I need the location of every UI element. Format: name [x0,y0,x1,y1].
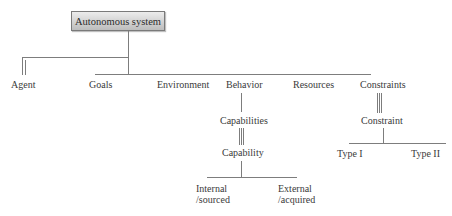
capability-branch-line [207,177,297,178]
agent-double-line-right [25,60,26,75]
internal-line2: /sourced [196,194,230,205]
agent-branch-line [22,57,129,58]
constraint-branch-line [349,143,446,144]
agent-double-line-left [22,57,23,75]
behavior-to-capabilities-line [241,93,242,112]
node-internal-sourced: Internal /sourced [196,183,230,205]
constraints-triple-line-2 [379,93,380,113]
node-type-2: Type II [411,148,440,159]
constraints-triple-line-3 [381,93,382,113]
external-line1: External [278,183,315,194]
main-branch-line [95,74,371,75]
node-behavior: Behavior [226,79,263,90]
node-environment: Environment [157,79,209,90]
capabilities-triple-line-2 [241,128,242,145]
node-capabilities: Capabilities [220,115,268,126]
node-type-1: Type I [337,148,363,159]
node-constraints: Constraints [360,79,406,90]
node-capability: Capability [222,147,264,158]
node-goals: Goals [89,79,112,90]
node-resources: Resources [293,79,334,90]
external-line2: /acquired [278,194,315,205]
capability-trunk-line [241,161,242,177]
diagram-canvas: Autonomous system Agent Goals Environmen… [0,0,452,216]
node-agent: Agent [11,79,35,90]
root-node-label: Autonomous system [75,16,161,27]
capabilities-triple-line-3 [243,128,244,145]
node-constraint: Constraint [361,115,403,126]
capabilities-triple-line-1 [239,128,240,145]
root-node-autonomous-system: Autonomous system [71,11,165,31]
constraints-triple-line-1 [377,93,378,113]
constraint-trunk-line [383,128,384,144]
root-trunk-line [128,31,129,75]
internal-line1: Internal [196,183,230,194]
node-external-acquired: External /acquired [278,183,315,205]
